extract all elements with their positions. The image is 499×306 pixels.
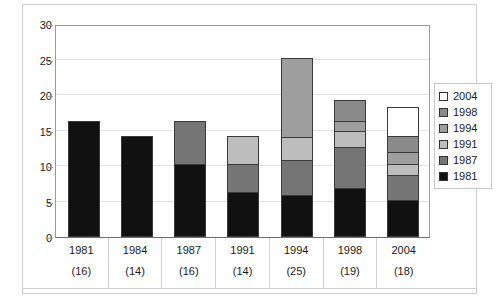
y-axis-tick	[48, 61, 53, 62]
bar-segment[interactable]	[388, 108, 418, 136]
bar-column[interactable]	[387, 26, 417, 237]
y-axis-tick	[48, 238, 53, 239]
bar-stack[interactable]	[281, 58, 313, 237]
x-axis-category: 1987(16)	[162, 238, 216, 288]
y-axis-ticks	[0, 25, 56, 238]
y-axis-tick	[48, 132, 53, 133]
legend-swatch-icon	[439, 156, 448, 165]
x-axis-category-label: 1984	[123, 244, 147, 256]
bar-segment[interactable]	[388, 137, 418, 153]
bar-stack[interactable]	[121, 136, 153, 237]
x-axis-category-count: (14)	[125, 265, 145, 277]
bar-segment[interactable]	[388, 153, 418, 165]
y-axis-tick	[48, 96, 53, 97]
x-axis-category-count: (19)	[340, 265, 360, 277]
x-axis-category-count: (18)	[394, 265, 414, 277]
bar-segment[interactable]	[388, 176, 418, 201]
bar-segment[interactable]	[388, 201, 418, 237]
x-axis-categories: 1981(16)1984(14)1987(16)1991(14)1994(25)…	[55, 238, 430, 288]
bar-segment[interactable]	[228, 193, 258, 236]
x-axis-category-label: 1987	[177, 244, 201, 256]
x-axis-category-count: (25)	[286, 265, 306, 277]
legend-item-label: 2004	[453, 90, 477, 102]
bar-segment[interactable]	[335, 189, 365, 236]
x-axis-category: 1984(14)	[109, 238, 163, 288]
x-axis-category-label: 1991	[230, 244, 254, 256]
bar-stack[interactable]	[387, 107, 419, 237]
bar-segment[interactable]	[175, 165, 205, 236]
chart-legend: 200419981994199119871981	[434, 83, 492, 189]
legend-item[interactable]: 2004	[439, 88, 488, 104]
legend-swatch-icon	[439, 92, 448, 101]
bar-segment[interactable]	[122, 137, 152, 236]
bar-column[interactable]	[174, 26, 204, 237]
legend-item[interactable]: 1987	[439, 152, 488, 168]
x-axis-category-label: 1981	[69, 244, 93, 256]
bar-segment[interactable]	[335, 122, 365, 131]
bar-segment[interactable]	[335, 132, 365, 148]
x-axis-category-label: 1994	[284, 244, 308, 256]
x-axis-category: 1981(16)	[55, 238, 109, 288]
x-axis-category-label: 2004	[391, 244, 415, 256]
y-axis-tick	[48, 25, 53, 26]
x-axis-category: 2004(18)	[377, 238, 430, 288]
bar-stack[interactable]	[334, 100, 366, 237]
bar-stack[interactable]	[174, 121, 206, 237]
bar-segment[interactable]	[335, 148, 365, 189]
bar-segment[interactable]	[175, 122, 205, 165]
x-axis-category: 1991(14)	[216, 238, 270, 288]
legend-item-label: 1981	[453, 170, 477, 182]
x-axis-category: 1998(19)	[324, 238, 378, 288]
x-axis-category-count: (16)	[72, 265, 92, 277]
bar-segment[interactable]	[282, 138, 312, 161]
x-axis-category-label: 1998	[338, 244, 362, 256]
bar-column[interactable]	[281, 26, 311, 237]
legend-swatch-icon	[439, 172, 448, 181]
legend-swatch-icon	[439, 140, 448, 149]
bar-segment[interactable]	[69, 122, 99, 236]
category-band-divider	[23, 288, 476, 289]
x-axis-category-count: (16)	[179, 265, 199, 277]
legend-item[interactable]: 1998	[439, 104, 488, 120]
bar-segment[interactable]	[228, 137, 258, 165]
plot-area	[55, 25, 430, 238]
bar-segment[interactable]	[282, 59, 312, 139]
legend-swatch-icon	[439, 124, 448, 133]
y-axis-tick	[48, 203, 53, 204]
y-axis-tick	[48, 167, 53, 168]
legend-item-label: 1998	[453, 106, 477, 118]
chart-title	[140, 0, 360, 7]
bar-segment[interactable]	[335, 101, 365, 122]
bar-column[interactable]	[68, 26, 98, 237]
bar-column[interactable]	[334, 26, 364, 237]
stacked-bar-chart: 051015202530 1981(16)1984(14)1987(16)199…	[0, 0, 499, 306]
bar-segment[interactable]	[282, 161, 312, 195]
bar-column[interactable]	[121, 26, 151, 237]
x-axis-category-count: (14)	[233, 265, 253, 277]
bar-segment[interactable]	[228, 165, 258, 193]
x-axis-category: 1994(25)	[270, 238, 324, 288]
legend-swatch-icon	[439, 108, 448, 117]
bars-layer	[56, 26, 429, 237]
legend-item-label: 1987	[453, 154, 477, 166]
bar-segment[interactable]	[282, 196, 312, 236]
bar-stack[interactable]	[68, 121, 100, 237]
bar-column[interactable]	[227, 26, 257, 237]
legend-item[interactable]: 1981	[439, 168, 488, 184]
legend-item[interactable]: 1994	[439, 120, 488, 136]
bar-segment[interactable]	[388, 165, 418, 176]
legend-item-label: 1991	[453, 138, 477, 150]
bar-stack[interactable]	[227, 136, 259, 237]
legend-item-label: 1994	[453, 122, 477, 134]
legend-item[interactable]: 1991	[439, 136, 488, 152]
